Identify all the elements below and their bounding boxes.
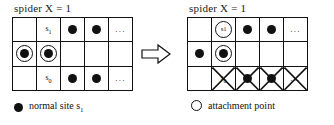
lattice-cell: ...: [284, 67, 308, 91]
lattice-cell: [37, 42, 61, 66]
filled-dot-icon: [68, 25, 77, 34]
lattice-cell: [13, 42, 37, 66]
lattice-cell: ...: [109, 67, 133, 91]
filled-dot-icon: [14, 103, 23, 112]
lattice-cell: s0: [37, 67, 61, 91]
filled-dot-icon: [267, 25, 276, 34]
ellipsis-label: ...: [115, 25, 125, 34]
lattice-cell: [260, 42, 284, 66]
attachment-point-icon: [215, 45, 232, 62]
filled-dot-icon: [267, 74, 276, 83]
open-circle-icon: [191, 100, 202, 111]
filled-dot-icon: [92, 25, 101, 34]
lattice-cell: [212, 42, 236, 66]
lattice-cell: [61, 42, 85, 66]
ellipsis-label: ...: [115, 74, 125, 83]
site-label: s1: [45, 25, 51, 35]
lattice-cell: [284, 42, 308, 66]
lattice-cell: s1: [212, 18, 236, 42]
legend-attachment-point: attachment point: [191, 100, 275, 111]
legend-attachment-point-label: attachment point: [208, 100, 275, 111]
ellipsis-label: ...: [290, 74, 300, 83]
lattice-cell: [260, 67, 284, 91]
lattice-cell: [85, 18, 109, 42]
attachment-point-labeled-icon: s1: [215, 21, 232, 38]
filled-dot-icon: [92, 74, 101, 83]
legend-normal-site-label: normal site s1: [29, 100, 84, 114]
lattice-grid-before: s1...s0...: [12, 17, 133, 91]
attachment-point-icon: [16, 45, 33, 62]
lattice-cell: [85, 67, 109, 91]
legend-normal-site: normal site s1: [14, 100, 84, 114]
panel-after-title: spider X = 1: [189, 2, 246, 14]
lattice-cell: [13, 18, 37, 42]
lattice-cell: [61, 18, 85, 42]
panel-after: spider X = 1 s1...s0... attachment point: [167, 0, 334, 125]
site-label: s0: [220, 74, 226, 84]
lattice-cell: ...: [109, 18, 133, 42]
lattice-grid-after: s1...s0...: [187, 17, 308, 91]
site-label: s0: [45, 74, 51, 84]
lattice-cell: [188, 42, 212, 66]
lattice-cell: [188, 18, 212, 42]
attachment-point-icon: [40, 45, 57, 62]
filled-dot-icon: [243, 25, 252, 34]
lattice-cell: [109, 42, 133, 66]
filled-dot-icon: [68, 74, 77, 83]
lattice-cell: [236, 18, 260, 42]
lattice-cell: [85, 42, 109, 66]
lattice-cell: s1: [37, 18, 61, 42]
lattice-cell: s0: [212, 67, 236, 91]
lattice-cell: [13, 67, 37, 91]
lattice-cell: [236, 42, 260, 66]
ellipsis-label: ...: [290, 25, 300, 34]
lattice-cell: [260, 18, 284, 42]
filled-dot-icon: [195, 49, 204, 58]
lattice-cell: [61, 67, 85, 91]
panel-before-title: spider X = 1: [14, 2, 71, 14]
filled-dot-icon: [243, 74, 252, 83]
lattice-cell: ...: [284, 18, 308, 42]
lattice-cell: [188, 67, 212, 91]
lattice-cell: [236, 67, 260, 91]
